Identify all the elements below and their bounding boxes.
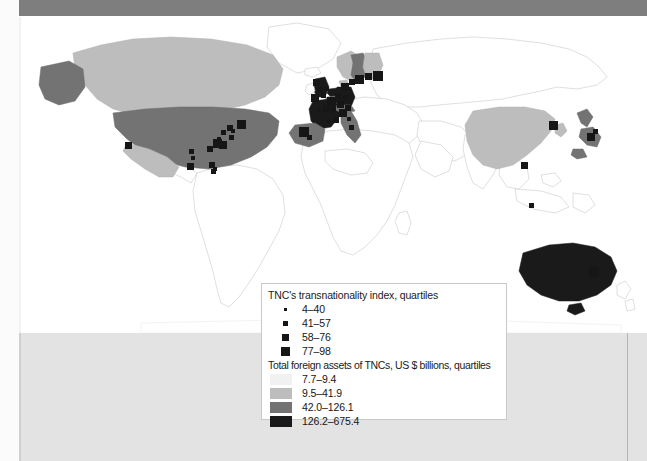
legend-symbol-swatch-4 [268, 347, 302, 356]
legend-fill-swatch-4 [268, 416, 302, 427]
legend-symbol-row-3: 58–76 [268, 330, 500, 344]
legend-symbol-row-2: 41–57 [268, 316, 500, 330]
legend-symbol-label-2: 41–57 [302, 317, 331, 330]
legend-symbol-label-1: 4–40 [302, 303, 325, 316]
page-gutter [0, 0, 19, 461]
legend-fill-label-2: 9.5–41.9 [302, 387, 342, 400]
legend-symbol-swatch-3 [268, 334, 302, 341]
marker-group-australia [589, 267, 599, 277]
legend-fill-label-1: 7.7–9.4 [302, 373, 336, 386]
legend-fill-row-1: 7.7–9.4 [268, 372, 500, 386]
legend-fill-swatch-3 [268, 402, 302, 413]
legend-fill-label-4: 126.2–675.4 [302, 415, 359, 428]
map-legend: TNC's transnationality index, quartiles … [261, 283, 507, 420]
header-band [19, 0, 647, 16]
legend-symbol-title: TNC's transnationality index, quartiles [268, 289, 500, 302]
legend-symbol-swatch-1 [268, 308, 302, 311]
legend-symbol-label-3: 58–76 [302, 331, 331, 344]
legend-symbol-swatch-2 [268, 321, 302, 326]
legend-fill-label-3: 42.0–126.1 [302, 401, 354, 414]
lower-band-left-edge [19, 333, 21, 461]
legend-fill-swatch-2 [268, 388, 302, 399]
legend-fill-swatch-1 [268, 374, 302, 385]
legend-symbol-label-4: 77–98 [302, 345, 331, 358]
scanned-page: .ol{fill:none;stroke:#c9c9c9;stroke-widt… [0, 0, 647, 461]
legend-choropleth-title: Total foreign assets of TNCs, US $ billi… [268, 359, 500, 372]
marker-group-south-america [213, 167, 217, 171]
legend-symbol-row-4: 77–98 [268, 344, 500, 358]
legend-symbol-row-1: 4–40 [268, 302, 500, 316]
legend-fill-row-4: 126.2–675.4 [268, 414, 500, 428]
legend-fill-row-3: 42.0–126.1 [268, 400, 500, 414]
legend-fill-row-2: 9.5–41.9 [268, 386, 500, 400]
